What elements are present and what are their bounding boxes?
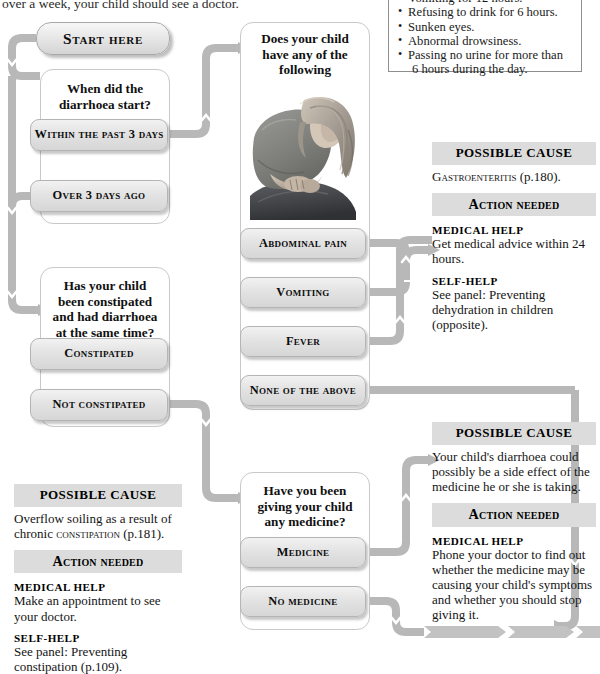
self-help-text: See panel: Preventing dehydration in chi… xyxy=(432,287,596,333)
option-label: Fever xyxy=(286,335,320,349)
option-label: Medicine xyxy=(277,546,330,560)
outcome-panel-medicine: POSSIBLE CAUSE Your child's diarrhoea co… xyxy=(432,422,596,623)
medical-help-text: Phone your doctor to find out whether th… xyxy=(432,547,596,623)
option-label: Constipated xyxy=(64,347,133,361)
question-title: Have you been giving your child any medi… xyxy=(241,483,369,530)
option-abdominal-pain[interactable]: Abdominal pain xyxy=(240,228,366,259)
self-help-label: SELF-HELP xyxy=(432,275,596,287)
option-medicine[interactable]: Medicine xyxy=(240,537,366,568)
warning-symptom-list: Vomiting for 12 hours. Refusing to drink… xyxy=(397,0,573,77)
question-title: When did the diarrhoea start? xyxy=(41,81,169,112)
option-constipated[interactable]: Constipated xyxy=(30,338,168,370)
option-label: Over 3 days ago xyxy=(53,189,146,203)
option-fever[interactable]: Fever xyxy=(240,326,366,357)
possible-cause-text: Overflow soiling as a result of chronic … xyxy=(14,511,182,541)
question-title: Has your child been constipated and had … xyxy=(41,278,169,340)
option-no-medicine[interactable]: No medicine xyxy=(240,586,366,617)
action-needed-header: Action needed xyxy=(14,550,182,574)
list-item: Sunken eyes. xyxy=(397,20,573,34)
option-label: Within the past 3 days xyxy=(34,128,163,142)
option-label: Abdominal pain xyxy=(259,237,347,251)
outcome-panel-constipation: POSSIBLE CAUSE Overflow soiling as a res… xyxy=(14,484,182,674)
warning-symptoms-box: Vomiting for 12 hours. Refusing to drink… xyxy=(388,0,582,72)
possible-cause-header: POSSIBLE CAUSE xyxy=(432,142,596,165)
option-within-past-3-days[interactable]: Within the past 3 days xyxy=(30,119,168,151)
possible-cause-header: POSSIBLE CAUSE xyxy=(14,484,182,507)
outcome-panel-gastroenteritis: POSSIBLE CAUSE Gastroenteritis (p.180). … xyxy=(432,142,596,332)
medical-help-label: MEDICAL HELP xyxy=(432,535,596,547)
option-label: No medicine xyxy=(268,595,337,609)
start-here-label: Start here xyxy=(63,32,143,46)
self-help-label: SELF-HELP xyxy=(14,632,182,644)
child-holding-stomach-photo xyxy=(248,78,364,228)
self-help-text: See panel: Preventing constipation (p.10… xyxy=(14,644,182,674)
option-none-of-the-above[interactable]: None of the above xyxy=(240,375,366,406)
option-label: Not constipated xyxy=(52,398,145,412)
possible-cause-header: POSSIBLE CAUSE xyxy=(432,422,596,445)
option-over-3-days-ago[interactable]: Over 3 days ago xyxy=(30,180,168,212)
action-needed-header: Action needed xyxy=(432,503,596,527)
option-label: Vomiting xyxy=(276,286,329,300)
medical-help-label: MEDICAL HELP xyxy=(432,224,596,236)
medical-help-text: Get medical advice within 24 hours. xyxy=(432,236,596,266)
action-needed-header: Action needed xyxy=(432,193,596,217)
medical-help-text: Make an appointment to see your doctor. xyxy=(14,593,182,623)
start-here-button[interactable]: Start here xyxy=(36,22,170,55)
list-item: Abnormal drowsiness. xyxy=(397,34,573,48)
list-item: Passing no urine for more than 6 hours d… xyxy=(397,48,573,77)
option-not-constipated[interactable]: Not constipated xyxy=(30,389,168,421)
possible-cause-text: Gastroenteritis (p.180). xyxy=(432,169,596,184)
medical-help-label: MEDICAL HELP xyxy=(14,581,182,593)
possible-cause-text: Your child's diarrhoea could possibly be… xyxy=(432,449,596,495)
option-vomiting[interactable]: Vomiting xyxy=(240,277,366,308)
option-label: None of the above xyxy=(250,384,356,398)
list-item: Refusing to drink for 6 hours. xyxy=(397,5,573,19)
